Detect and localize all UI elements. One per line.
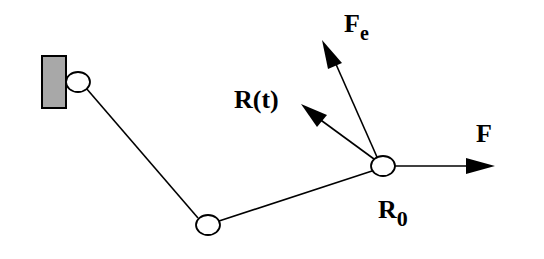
- arrow-fe: [335, 62, 377, 157]
- wall-block: [42, 56, 66, 108]
- label-f: F: [476, 119, 492, 148]
- arrowhead-f: [466, 158, 495, 174]
- joint-anchor: [66, 72, 90, 92]
- arrow-rt: [318, 118, 374, 159]
- link-upper: [86, 88, 198, 218]
- label-fe: Fe: [344, 9, 369, 44]
- joint-elbow: [196, 215, 220, 235]
- label-rt: R(t): [234, 85, 279, 114]
- arrowhead-rt: [301, 104, 327, 127]
- joint-end: [371, 156, 395, 176]
- link-lower: [219, 171, 372, 221]
- arrowhead-fe: [322, 40, 342, 69]
- linkage-diagram: Fe R(t) F R0: [0, 0, 544, 259]
- label-r0: R0: [378, 195, 408, 231]
